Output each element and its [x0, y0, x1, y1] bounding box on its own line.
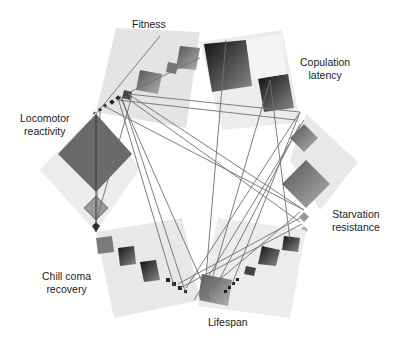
label-copulation-latency: Copulation latency [300, 56, 350, 81]
diagram-canvas: Fitness Copulation latency Starvation re… [0, 0, 400, 343]
label-chill-coma-recovery: Chill coma recovery [42, 270, 91, 295]
label-line: Starvation [332, 208, 380, 221]
label-lifespan: Lifespan [208, 316, 248, 329]
label-line: resistance [332, 221, 380, 234]
label-locomotor-reactivity: Locomotor reactivity [20, 112, 70, 137]
chill-coma-recovery-matrix [96, 218, 200, 318]
label-line: Chill coma [42, 270, 91, 283]
label-line: Locomotor [20, 112, 70, 125]
label-starvation-resistance: Starvation resistance [332, 208, 380, 233]
fitness-matrix [93, 28, 200, 128]
label-line: reactivity [20, 125, 70, 138]
label-line: latency [300, 69, 350, 82]
label-line: Fitness [132, 18, 166, 31]
label-line: Copulation [300, 56, 350, 69]
label-line: Lifespan [208, 316, 248, 329]
label-line: recovery [42, 283, 91, 296]
label-fitness: Fitness [132, 18, 166, 31]
